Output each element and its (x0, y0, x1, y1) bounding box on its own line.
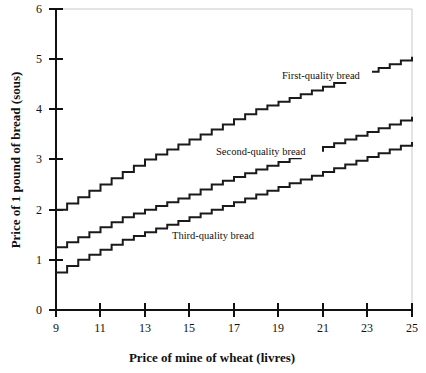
x-tick-label-21: 21 (317, 321, 329, 335)
x-tick-label-13: 13 (139, 321, 151, 335)
y-tick-label-2: 2 (36, 203, 42, 217)
y-tick-label-4: 4 (36, 102, 42, 116)
annotation-first-quality-bread: First-quality bread (282, 70, 361, 81)
chart-container: 6 5 4 3 2 1 0 9 11 13 (0, 0, 426, 373)
x-tick-label-23: 23 (361, 321, 373, 335)
annotation-second-quality-bread: Second-quality bread (216, 146, 306, 157)
y-tick-label-5: 5 (36, 52, 42, 66)
annotation-third-quality-bread: Third-quality bread (172, 230, 255, 241)
x-tick-label-11: 11 (94, 321, 106, 335)
x-tick-label-9: 9 (53, 321, 59, 335)
y-tick-label-6: 6 (36, 2, 42, 16)
y-tick-label-0: 0 (36, 303, 42, 317)
y-axis-title: Price of 1 pound of bread (sous) (8, 72, 23, 249)
x-tick-label-15: 15 (183, 321, 195, 335)
bread-price-step-chart: 6 5 4 3 2 1 0 9 11 13 (0, 0, 426, 373)
x-tick-label-17: 17 (228, 321, 240, 335)
y-tick-label-3: 3 (36, 152, 42, 166)
y-tick-label-1: 1 (36, 253, 42, 267)
x-tick-label-19: 19 (272, 321, 284, 335)
x-tick-label-25: 25 (406, 321, 418, 335)
x-axis-title: Price of mine of wheat (livres) (129, 350, 295, 365)
chart-background (0, 0, 426, 373)
